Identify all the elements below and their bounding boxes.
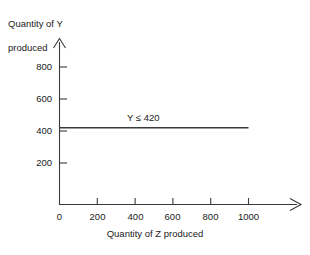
chart-figure: Quantity of Y produced Quantity of Z pro… xyxy=(0,0,310,255)
y-axis-title: Quantity of Y produced xyxy=(8,6,63,66)
x-tick-label-800: 800 xyxy=(196,212,225,222)
y-tick-label-600: 600 xyxy=(24,94,52,104)
x-tick-label-0: 0 xyxy=(45,212,74,222)
y-tick-label-200: 200 xyxy=(24,158,52,168)
x-axis-title: Quantity of Z produced xyxy=(0,228,310,240)
y-tick-label-800: 800 xyxy=(24,62,52,72)
x-tick-label-400: 400 xyxy=(121,212,150,222)
y-axis-title-line1: Quantity of Y xyxy=(8,18,63,30)
y-tick-label-400: 400 xyxy=(24,126,52,136)
x-tick-label-200: 200 xyxy=(83,212,112,222)
series-annotation-label: Y ≤ 420 xyxy=(127,113,160,123)
x-tick-label-1000: 1000 xyxy=(234,212,263,222)
x-tick-label-600: 600 xyxy=(158,212,187,222)
y-axis-title-line2: produced xyxy=(8,42,63,54)
